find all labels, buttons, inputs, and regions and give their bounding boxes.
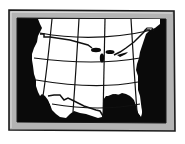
framed-map-illustration: Continental United States bbox=[0, 0, 185, 144]
lake-huron bbox=[106, 50, 115, 54]
lake-superior bbox=[91, 48, 101, 52]
lake-michigan bbox=[100, 54, 104, 63]
map-svg bbox=[0, 0, 185, 144]
